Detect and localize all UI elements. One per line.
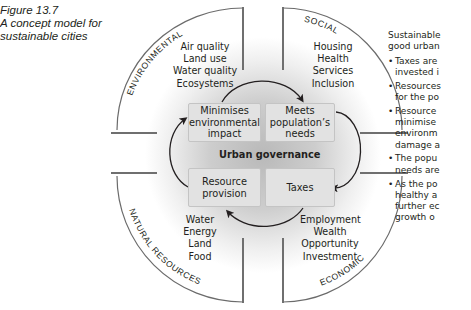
list-item: Housing	[308, 41, 358, 53]
list-item: Land use	[166, 53, 244, 65]
box-text-line: Taxes	[287, 182, 314, 194]
list-item: Ecosystems	[166, 78, 244, 90]
list-item: Employment	[300, 214, 360, 226]
bullet-line: minimise	[395, 117, 471, 128]
list-item: Air quality	[166, 41, 244, 53]
economic-items: Employment Wealth Opportunity Investment	[300, 214, 360, 263]
bullet-line: As the po	[395, 179, 471, 190]
box-text-line: environmental	[189, 117, 260, 129]
box-taxes: Taxes	[265, 168, 335, 207]
bullet-item: Resource minimise environm damage a	[388, 106, 471, 151]
list-item: Food	[178, 251, 222, 263]
bullet-line: Taxes are	[395, 56, 471, 67]
environmental-items: Air quality Land use Water quality Ecosy…	[166, 41, 244, 90]
bullet-item: The popu needs are	[388, 153, 471, 176]
side-text: Sustainable good urban Taxes are investe…	[388, 30, 471, 226]
box-text-line: needs	[270, 128, 330, 140]
list-item: Services	[308, 65, 358, 77]
urban-governance-title: Urban governance	[219, 149, 320, 160]
side-bullet-list: Taxes are invested i Resources for the p…	[388, 56, 471, 224]
list-item: Opportunity	[300, 238, 360, 250]
box-text-line: Minimises	[189, 105, 260, 117]
bullet-item: Taxes are invested i	[388, 56, 471, 79]
bullet-line: invested i	[395, 67, 471, 78]
list-item: Land	[178, 238, 222, 250]
bullet-line: Resources	[395, 81, 471, 92]
box-text-line: impact	[189, 128, 260, 140]
bullet-item: Resources for the po	[388, 81, 471, 104]
side-intro: Sustainable good urban	[388, 30, 471, 53]
list-item: Water	[178, 214, 222, 226]
box-text-line: Resource	[202, 176, 247, 188]
bullet-item: As the po healthy a further ec growth o	[388, 179, 471, 224]
social-items: Housing Health Services Inclusion	[308, 41, 358, 90]
bullet-line: The popu	[395, 153, 471, 164]
bullet-line: damage a	[395, 140, 471, 151]
label-social: SOCIAL	[303, 14, 340, 36]
box-text-line: population’s	[270, 117, 330, 129]
bullet-line: further ec	[395, 201, 471, 212]
list-item: Energy	[178, 226, 222, 238]
box-minimises-environmental-impact: Minimises environmental impact	[188, 103, 261, 142]
bullet-line: healthy a	[395, 190, 471, 201]
bullet-line: environm	[395, 128, 471, 139]
list-item: Inclusion	[308, 78, 358, 90]
box-text-line: provision	[202, 188, 247, 200]
list-item: Investment	[300, 251, 360, 263]
bullet-line: for the po	[395, 92, 471, 103]
bullet-line: growth o	[395, 212, 471, 223]
box-meets-population-needs: Meets population’s needs	[265, 103, 335, 142]
intro-line: Sustainable	[388, 30, 471, 41]
box-resource-provision: Resource provision	[188, 168, 261, 207]
bullet-line: needs are	[395, 165, 471, 176]
box-text-line: Meets	[270, 105, 330, 117]
list-item: Water quality	[166, 65, 244, 77]
natural-resources-items: Water Energy Land Food	[178, 214, 222, 263]
list-item: Wealth	[300, 226, 360, 238]
list-item: Health	[308, 53, 358, 65]
bullet-line: Resource	[395, 106, 471, 117]
intro-line: good urban	[388, 41, 471, 52]
